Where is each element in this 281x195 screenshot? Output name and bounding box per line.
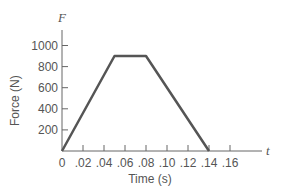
x-tick-label: .14 [201, 156, 218, 170]
x-ticks: 0.02.04.06.08.10.12.14.16 [59, 145, 239, 170]
y-axis-title: Force (N) [8, 75, 22, 126]
x-axis-title: Time (s) [128, 172, 172, 186]
y-tick-label: 200 [38, 123, 58, 137]
x-tick-label: .16 [222, 156, 239, 170]
x-tick-label: .08 [138, 156, 155, 170]
force-series-line [62, 56, 209, 151]
x-tick-label: .02 [75, 156, 92, 170]
x-tick-label: 0 [59, 156, 66, 170]
y-tick-label: 400 [38, 102, 58, 116]
x-tick-label: .12 [180, 156, 197, 170]
y-tick-label: 800 [38, 60, 58, 74]
x-tick-label: .10 [159, 156, 176, 170]
x-tick-label: .04 [96, 156, 113, 170]
x-axis-variable: t [266, 143, 270, 158]
y-axis-variable: F [57, 10, 67, 25]
y-tick-label: 1000 [31, 39, 58, 53]
force-time-chart: F t 2004006008001000 0.02.04.06.08.10.12… [0, 0, 281, 195]
y-tick-label: 600 [38, 81, 58, 95]
x-tick-label: .06 [117, 156, 134, 170]
